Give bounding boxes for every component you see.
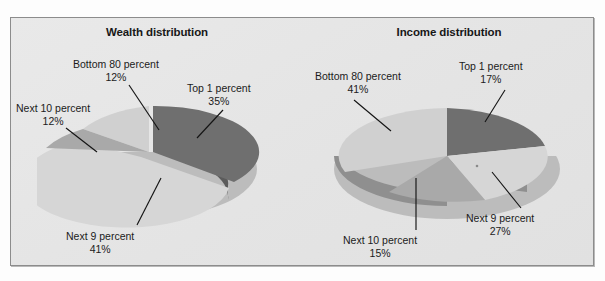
leader-lines-wealth [11, 18, 303, 267]
figure-frame: Wealth distribution [10, 17, 594, 266]
chart-panel-wealth: Wealth distribution [11, 18, 303, 267]
leader-lines-income [303, 18, 595, 267]
chart-panel-income: Income distribution [303, 18, 595, 267]
